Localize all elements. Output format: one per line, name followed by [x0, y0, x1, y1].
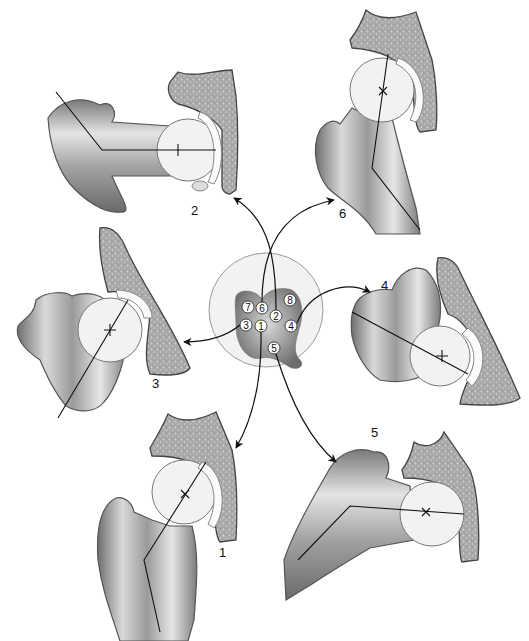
svg-text:5: 5	[271, 343, 277, 354]
arrow-zone5-to-view5	[276, 354, 336, 462]
view-label-2: 2	[191, 203, 198, 218]
acetabular-zone-map: 7 6 2 8 3 1 4 5	[209, 253, 323, 368]
zone-8: 8	[284, 294, 296, 306]
zone-7: 7	[242, 301, 254, 313]
view-1-illustration: 1	[98, 412, 237, 641]
zone-5: 5	[268, 342, 280, 354]
zone-1: 1	[255, 320, 267, 332]
svg-text:8: 8	[287, 295, 293, 306]
hip-diagram: 2 6 3 4 1	[0, 0, 529, 641]
femur-shaft-6	[315, 108, 420, 234]
view-label-1: 1	[219, 545, 226, 560]
view-label-4: 4	[381, 278, 388, 293]
femur-shaft-5	[284, 450, 414, 600]
fragment-2	[192, 181, 208, 191]
zone-3: 3	[240, 319, 252, 331]
svg-text:1: 1	[258, 321, 264, 332]
svg-text:2: 2	[273, 311, 279, 322]
view-label-5: 5	[371, 425, 378, 440]
view-5-illustration: 5	[284, 425, 479, 600]
zone-6: 6	[256, 302, 268, 314]
view-4-illustration: 4	[351, 258, 520, 405]
view-2-illustration: 2	[48, 70, 238, 218]
view-label-6: 6	[339, 206, 346, 221]
svg-text:3: 3	[243, 320, 249, 331]
svg-text:6: 6	[259, 303, 265, 314]
svg-text:4: 4	[288, 321, 294, 332]
femoral-head-5	[400, 482, 464, 546]
view-3-illustration: 3	[17, 228, 190, 418]
zone-2: 2	[270, 310, 282, 322]
zone-4: 4	[285, 320, 297, 332]
view-label-3: 3	[152, 376, 159, 391]
svg-text:7: 7	[245, 302, 251, 313]
